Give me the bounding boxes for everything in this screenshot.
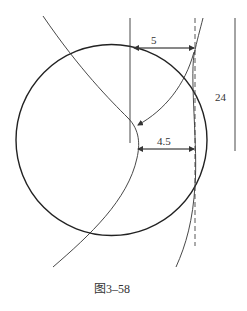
right-curve [176,18,203,267]
dimension-5-label: 5 [151,34,157,46]
left-curve [43,16,139,267]
figure-caption: 图3–58 [94,282,130,296]
length-24-label: 24 [215,91,227,103]
dimension-4-5-label: 4.5 [157,135,171,147]
main-circle [16,45,207,236]
curved-arrow [138,52,194,125]
diagram-canvas: 5 4.5 24 图3–58 [0,0,247,311]
